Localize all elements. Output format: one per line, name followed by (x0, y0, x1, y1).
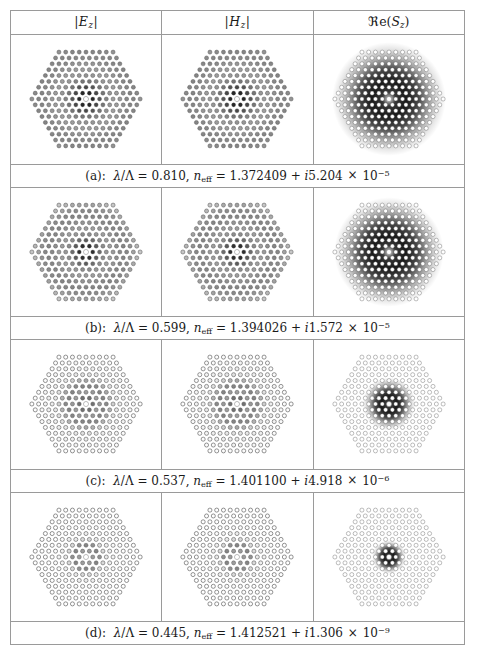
caption-b-text: (b): λ/Λ = 0.599, neff = 1.394026 + i1.5… (85, 320, 390, 336)
panel-d-ez (11, 493, 162, 622)
panel-row-d (11, 493, 464, 623)
table-header-row: |Ez| |Hz| ℜe(Sz) (11, 11, 464, 35)
column-header-resz-label: ℜe(Sz) (368, 14, 409, 30)
caption-c-text: (c): λ/Λ = 0.537, neff = 1.401100 + i4.9… (85, 473, 389, 489)
panel-a-hz (162, 35, 313, 164)
panel-d-resz (314, 493, 464, 622)
panel-b-resz (314, 188, 464, 317)
caption-row-b: (b): λ/Λ = 0.599, neff = 1.394026 + i1.5… (11, 317, 464, 340)
column-header-hz-label: |Hz| (225, 14, 251, 30)
column-header-ez-label: |Ez| (74, 14, 98, 30)
panel-b-hz (162, 188, 313, 317)
panel-b-ez (11, 188, 162, 317)
column-header-ez: |Ez| (11, 11, 162, 34)
panel-row-a (11, 35, 464, 165)
caption-row-d: (d): λ/Λ = 0.445, neff = 1.412521 + i1.3… (11, 622, 464, 644)
column-header-resz: ℜe(Sz) (314, 11, 464, 34)
figure-table: |Ez| |Hz| ℜe(Sz) (a): λ/Λ = 0.810, neff … (10, 10, 465, 645)
caption-row-a: (a): λ/Λ = 0.810, neff = 1.372409 + i5.2… (11, 165, 464, 188)
column-header-hz: |Hz| (162, 11, 313, 34)
caption-d-text: (d): λ/Λ = 0.445, neff = 1.412521 + i1.3… (85, 625, 390, 641)
panel-c-resz (314, 340, 464, 469)
caption-row-c: (c): λ/Λ = 0.537, neff = 1.401100 + i4.9… (11, 470, 464, 493)
panel-row-b (11, 188, 464, 318)
panel-c-ez (11, 340, 162, 469)
panel-d-hz (162, 493, 313, 622)
caption-a-text: (a): λ/Λ = 0.810, neff = 1.372409 + i5.2… (85, 168, 389, 184)
panel-a-resz (314, 35, 464, 164)
panel-a-ez (11, 35, 162, 164)
panel-c-hz (162, 340, 313, 469)
panel-row-c (11, 340, 464, 470)
